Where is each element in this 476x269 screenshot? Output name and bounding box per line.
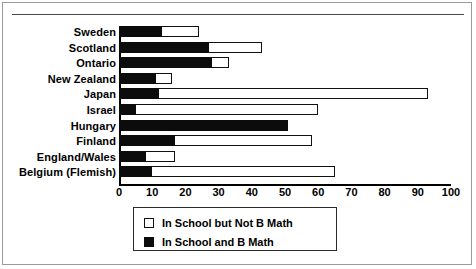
category-label: Scotland xyxy=(69,41,116,55)
bar-row xyxy=(119,166,335,177)
bar-row xyxy=(119,57,229,68)
legend-label: In School and B Math xyxy=(162,236,274,248)
legend-label: In School but Not B Math xyxy=(162,217,293,229)
category-label: England/Wales xyxy=(37,150,116,164)
bar-row xyxy=(119,151,175,162)
legend-item: In School but Not B Math xyxy=(144,215,293,231)
bar-row xyxy=(119,42,262,53)
chart-legend: In School but Not B MathIn School and B … xyxy=(133,207,337,251)
bar-segment-in-school-and-b-math xyxy=(119,26,162,37)
bar-segment-in-school-and-b-math xyxy=(119,166,152,177)
bar-segment-in-school-and-b-math xyxy=(119,120,288,131)
legend-swatch-filled-icon xyxy=(144,237,154,247)
category-label: Hungary xyxy=(71,119,116,133)
bar-segment-in-school-and-b-math xyxy=(119,73,156,84)
x-tick-label: 50 xyxy=(270,186,300,198)
legend-item: In School and B Math xyxy=(144,234,274,250)
bar-segment-in-school-and-b-math xyxy=(119,104,136,115)
x-tick-label: 70 xyxy=(336,186,366,198)
x-tick-label: 90 xyxy=(403,186,433,198)
category-label: Israel xyxy=(87,103,116,117)
bar-segment-in-school-not-b-math xyxy=(119,104,318,115)
category-axis-labels: SwedenScotlandOntarioNew ZealandJapanIsr… xyxy=(8,26,116,184)
category-label: Belgium (Flemish) xyxy=(19,165,116,179)
category-label: New Zealand xyxy=(48,72,116,86)
bar-row xyxy=(119,88,428,99)
x-tick-label: 40 xyxy=(237,186,267,198)
x-tick-label: 20 xyxy=(170,186,200,198)
legend-swatch-open-icon xyxy=(144,218,154,228)
bar-row xyxy=(119,26,199,37)
category-label: Ontario xyxy=(76,56,116,70)
bar-segment-in-school-not-b-math xyxy=(119,88,428,99)
chart-figure: SwedenScotlandOntarioNew ZealandJapanIsr… xyxy=(0,0,476,269)
x-tick-label: 30 xyxy=(204,186,234,198)
bar-segment-in-school-and-b-math xyxy=(119,42,209,53)
category-label: Finland xyxy=(76,134,116,148)
bar-segment-in-school-and-b-math xyxy=(119,88,159,99)
bar-row xyxy=(119,120,288,131)
bar-row xyxy=(119,104,318,115)
bar-segment-in-school-and-b-math xyxy=(119,151,146,162)
x-tick-label: 100 xyxy=(436,186,466,198)
bar-segment-in-school-and-b-math xyxy=(119,135,175,146)
bar-row xyxy=(119,73,172,84)
bar-segment-in-school-and-b-math xyxy=(119,57,212,68)
x-tick-label: 10 xyxy=(137,186,167,198)
category-label: Japan xyxy=(84,87,116,101)
bar-row xyxy=(119,135,312,146)
x-tick-label: 80 xyxy=(370,186,400,198)
x-tick-label: 0 xyxy=(104,186,134,198)
category-label: Sweden xyxy=(74,25,116,39)
x-tick-label: 60 xyxy=(303,186,333,198)
